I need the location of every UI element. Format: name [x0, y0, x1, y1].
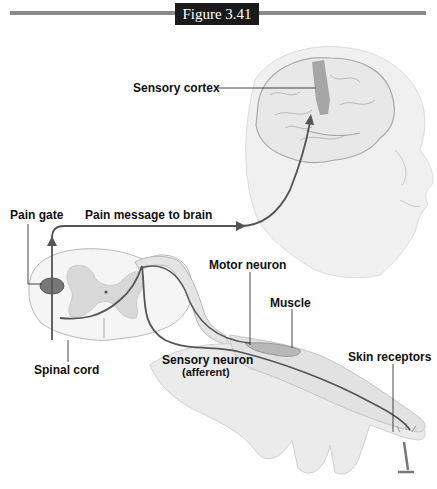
spinal-cord-illustration [29, 249, 230, 345]
label-pain-gate: Pain gate [10, 208, 63, 222]
pin [398, 442, 414, 472]
label-skin-receptors: Skin receptors [348, 350, 431, 364]
label-sensory-neuron: Sensory neuron [162, 353, 253, 367]
arrow-right-icon [236, 221, 246, 231]
pain-pathway-illustration [0, 0, 437, 489]
label-spinal-cord: Spinal cord [34, 363, 99, 377]
label-pain-message: Pain message to brain [85, 208, 212, 222]
arrow-up-icon [47, 236, 57, 246]
label-muscle: Muscle [270, 296, 311, 310]
label-sensory-neuron-afferent: (afferent) [182, 366, 230, 378]
label-sensory-cortex: Sensory cortex [133, 81, 220, 95]
label-motor-neuron: Motor neuron [209, 258, 286, 272]
